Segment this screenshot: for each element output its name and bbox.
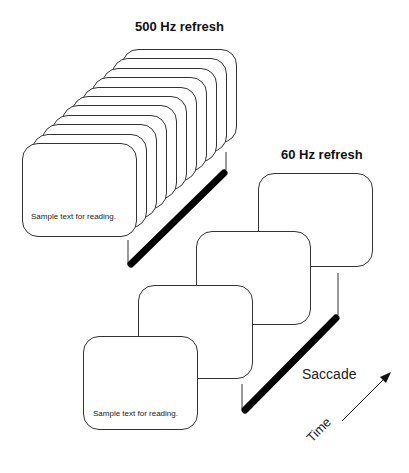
saccade-label: Saccade bbox=[302, 366, 356, 382]
time-arrow-shaft bbox=[342, 377, 386, 421]
fast-timeline-bar bbox=[131, 173, 224, 264]
diagram-lines bbox=[0, 0, 409, 473]
refresh-rate-diagram: 500 Hz refresh 60 Hz refresh Sample text… bbox=[0, 0, 409, 473]
saccade-bar bbox=[245, 318, 336, 410]
